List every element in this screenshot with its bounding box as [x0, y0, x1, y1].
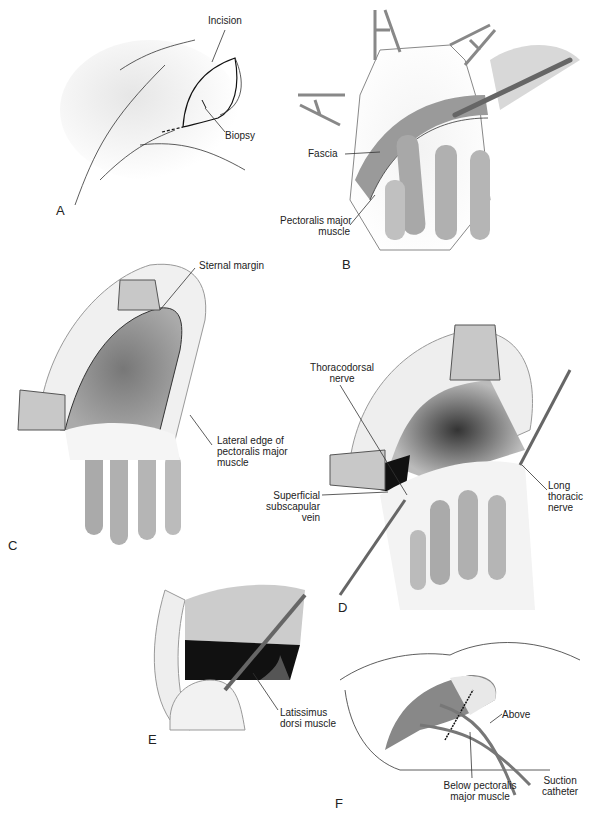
label-below-pectoralis: Below pectoralis major muscle: [435, 780, 525, 802]
label-pectoralis-line2: muscle: [318, 226, 350, 237]
label-suction-line1: Suction: [543, 775, 576, 786]
label-incision: Incision: [208, 15, 242, 26]
panel-letter-a: A: [56, 203, 65, 218]
panel-letter-e: E: [148, 732, 157, 747]
label-superficial-line1: Superficial: [273, 490, 320, 501]
label-thoracodorsal-line1: Thoracodorsal: [310, 362, 374, 373]
panel-e: Latissimus dorsi muscle E: [140, 580, 340, 750]
panel-a: Incision Biopsy A: [0, 0, 290, 220]
label-thoracodorsal-line2: nerve: [329, 373, 354, 384]
label-long-line1: Long: [548, 480, 570, 491]
label-sternal-margin: Sternal margin: [199, 260, 264, 271]
label-below-line2: major muscle: [450, 791, 509, 802]
panel-letter-f: F: [335, 796, 343, 811]
label-latissimus-line2: dorsi muscle: [280, 718, 336, 729]
label-long-line2: thoracic: [548, 491, 583, 502]
panel-letter-c: C: [8, 538, 17, 553]
label-latissimus-dorsi: Latissimus dorsi muscle: [280, 707, 336, 729]
panel-b: Fascia Pectoralis major muscle B: [290, 0, 591, 280]
label-suction-line2: catheter: [542, 786, 578, 797]
panel-a-illustration: [0, 0, 290, 220]
label-above: Above: [502, 709, 530, 720]
label-superficial-line2: subscapular: [266, 501, 320, 512]
label-below-line1: Below pectoralis: [444, 780, 517, 791]
panel-letter-b: B: [342, 257, 351, 272]
label-lateral-line2: pectoralis major: [217, 446, 288, 457]
panel-b-illustration: [290, 0, 591, 280]
label-latissimus-line1: Latissimus: [280, 707, 327, 718]
label-superficial-subscapular-vein: Superficial subscapular vein: [250, 490, 320, 523]
panel-d: Thoracodorsal nerve Superficial subscapu…: [290, 290, 591, 620]
label-superficial-line3: vein: [302, 512, 320, 523]
label-biopsy: Biopsy: [225, 130, 255, 141]
label-lateral-line3: muscle: [217, 457, 249, 468]
label-lateral-line1: Lateral edge of: [217, 435, 284, 446]
panel-f: Above Below pectoralis major muscle Suct…: [330, 620, 591, 816]
label-long-line3: nerve: [548, 502, 573, 513]
label-lateral-edge: Lateral edge of pectoralis major muscle: [217, 435, 288, 468]
panel-d-illustration: [290, 290, 591, 620]
label-suction-catheter: Suction catheter: [542, 775, 578, 797]
label-long-thoracic-nerve: Long thoracic nerve: [548, 480, 583, 513]
label-thoracodorsal-nerve: Thoracodorsal nerve: [302, 362, 382, 384]
label-fascia: Fascia: [308, 148, 337, 159]
